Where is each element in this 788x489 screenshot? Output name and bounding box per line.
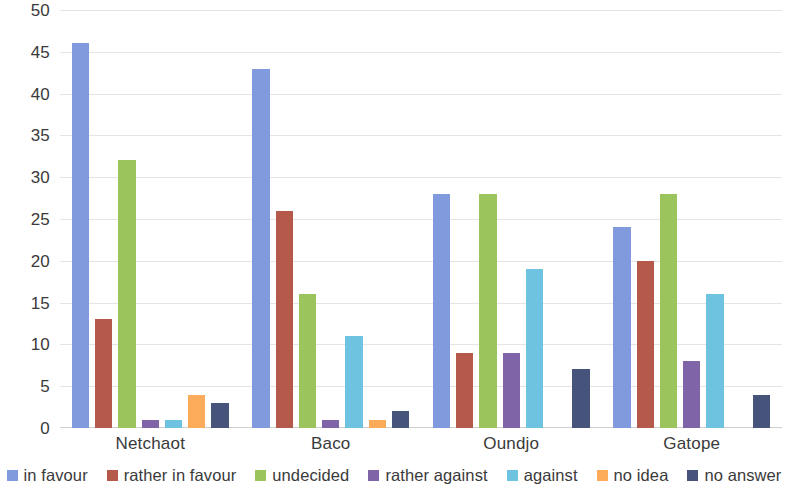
bar[interactable]: [706, 294, 723, 428]
bar[interactable]: [95, 319, 112, 428]
y-axis-tick-label: 15: [2, 294, 50, 311]
bar[interactable]: [526, 269, 543, 428]
y-axis-tick-label: 35: [2, 127, 50, 144]
legend-item[interactable]: no answer: [687, 467, 781, 484]
legend-label: no idea: [614, 467, 669, 484]
legend-label: in favour: [24, 467, 88, 484]
legend-color-swatch-icon: [507, 470, 518, 481]
bar[interactable]: [392, 411, 409, 428]
bar-group: [602, 10, 783, 428]
y-axis-tick-label: 30: [2, 169, 50, 186]
bar-group-bars: [602, 10, 783, 428]
y-axis-tick-label: 10: [2, 336, 50, 353]
bar-group: [241, 10, 422, 428]
bar[interactable]: [637, 261, 654, 428]
bar[interactable]: [479, 194, 496, 428]
y-axis: 50454035302520151050: [0, 10, 50, 428]
bar[interactable]: [72, 43, 89, 428]
bar[interactable]: [211, 403, 228, 428]
bar[interactable]: [433, 194, 450, 428]
legend-item[interactable]: against: [507, 467, 578, 484]
x-axis: NetchaotBacoOundjoGatope: [60, 432, 782, 458]
x-axis-tick-label: Baco: [241, 432, 422, 458]
bar[interactable]: [322, 420, 339, 428]
legend-color-swatch-icon: [687, 470, 698, 481]
legend-color-swatch-icon: [107, 470, 118, 481]
bar-group-bars: [60, 10, 241, 428]
bar[interactable]: [165, 420, 182, 428]
legend-item[interactable]: rather against: [368, 467, 487, 484]
legend-label: no answer: [704, 467, 781, 484]
bar[interactable]: [369, 420, 386, 428]
bar[interactable]: [503, 353, 520, 428]
y-axis-tick-label: 40: [2, 85, 50, 102]
bar[interactable]: [572, 369, 589, 428]
bar-groups: [60, 10, 782, 428]
legend-item[interactable]: in favour: [7, 467, 88, 484]
plot-area: [60, 10, 782, 428]
y-axis-tick-label: 50: [2, 2, 50, 19]
bar[interactable]: [188, 395, 205, 428]
legend-item[interactable]: rather in favour: [107, 467, 237, 484]
legend-label: undecided: [272, 467, 349, 484]
x-axis-tick-label: Gatope: [602, 432, 783, 458]
x-axis-tick-label: Oundjo: [421, 432, 602, 458]
bar[interactable]: [683, 361, 700, 428]
bar-group: [421, 10, 602, 428]
legend-item[interactable]: no idea: [597, 467, 669, 484]
legend-label: against: [524, 467, 578, 484]
bar[interactable]: [118, 160, 135, 428]
y-axis-tick-label: 25: [2, 211, 50, 228]
bar[interactable]: [299, 294, 316, 428]
legend-label: rather against: [385, 467, 487, 484]
y-axis-tick-label: 45: [2, 43, 50, 60]
legend-color-swatch-icon: [368, 470, 379, 481]
bar[interactable]: [252, 69, 269, 428]
legend-color-swatch-icon: [255, 470, 266, 481]
y-axis-tick-label: 0: [2, 420, 50, 437]
y-axis-tick-label: 5: [2, 378, 50, 395]
bar-group-bars: [421, 10, 602, 428]
bar[interactable]: [276, 211, 293, 428]
bar[interactable]: [660, 194, 677, 428]
x-axis-tick-label: Netchaot: [60, 432, 241, 458]
bar-group: [60, 10, 241, 428]
bar[interactable]: [456, 353, 473, 428]
legend-color-swatch-icon: [597, 470, 608, 481]
legend-label: rather in favour: [124, 467, 237, 484]
bar[interactable]: [142, 420, 159, 428]
chart-legend: in favourrather in favourundecidedrather…: [0, 462, 788, 489]
bar[interactable]: [345, 336, 362, 428]
bar-group-bars: [241, 10, 422, 428]
bar[interactable]: [753, 395, 770, 428]
y-axis-tick-label: 20: [2, 252, 50, 269]
bar[interactable]: [613, 227, 630, 428]
bar-chart: 50454035302520151050 NetchaotBacoOundjoG…: [0, 0, 788, 489]
legend-color-swatch-icon: [7, 470, 18, 481]
legend-item[interactable]: undecided: [255, 467, 349, 484]
